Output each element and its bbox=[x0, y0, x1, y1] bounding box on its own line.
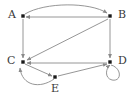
node-label-e: E bbox=[51, 83, 59, 94]
node-label-c: C bbox=[7, 55, 15, 66]
edge-d-self-loop bbox=[107, 65, 120, 80]
edge-c-to-e bbox=[25, 64, 52, 76]
node-label-b: B bbox=[118, 9, 126, 20]
edge-e-to-c bbox=[20, 68, 54, 85]
node-e[interactable] bbox=[53, 75, 56, 78]
directed-graph-figure: A B C D E bbox=[0, 0, 133, 97]
graph-canvas bbox=[0, 0, 133, 97]
edge-e-to-d bbox=[58, 64, 107, 76]
edges-layer bbox=[20, 5, 119, 85]
node-b[interactable] bbox=[108, 14, 111, 17]
node-a[interactable] bbox=[21, 14, 24, 17]
node-label-a: A bbox=[8, 9, 16, 20]
node-d[interactable] bbox=[108, 60, 111, 63]
node-label-d: D bbox=[118, 55, 127, 66]
edge-a-to-b bbox=[25, 5, 107, 14]
node-c[interactable] bbox=[21, 60, 24, 63]
edge-b-to-c bbox=[27, 19, 108, 60]
